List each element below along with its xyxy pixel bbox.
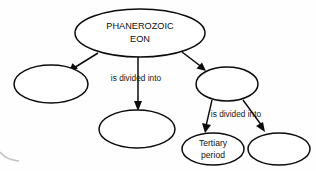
arrow-head-icon [256,122,265,132]
diagram-canvas: PHANEROZOIC EON Tertiary period [0,0,316,171]
node-label-line2: period [201,150,225,160]
node-shape[interactable] [99,110,175,148]
scan-edge-artifact [0,152,19,161]
node-era-right[interactable] [196,67,258,101]
scan-artifacts-layer [0,152,19,161]
edge-label-era-divided: is divided into [211,109,262,119]
node-shape[interactable] [196,67,258,101]
node-shape[interactable] [75,9,205,57]
node-tertiary-period[interactable]: Tertiary period [182,133,244,165]
node-era-middle[interactable] [99,110,175,148]
node-label-line1: Tertiary [199,138,228,148]
node-phanerozoic-eon[interactable]: PHANEROZOIC EON [75,9,205,57]
node-period-right[interactable] [248,133,310,165]
node-era-left[interactable] [14,65,88,103]
node-label-line1: PHANEROZOIC [106,21,174,31]
arrow-head-icon [202,123,211,133]
edge-eon-to-era-right [182,52,206,71]
node-shape[interactable] [248,133,310,165]
node-label-line2: EON [130,34,150,44]
nodes-layer: PHANEROZOIC EON Tertiary period [14,9,310,165]
edge-eon-to-era-middle [134,57,142,111]
edge-label-eon-divided: is divided into [111,73,162,83]
node-shape[interactable] [14,65,88,103]
concept-map-svg: PHANEROZOIC EON Tertiary period [0,0,316,171]
